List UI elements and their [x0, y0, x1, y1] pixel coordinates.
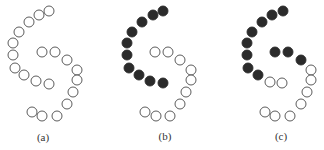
open-circle — [27, 107, 37, 117]
figure: (a) (b) (c) — [0, 0, 324, 150]
open-circle — [140, 107, 150, 117]
open-circle — [8, 38, 18, 48]
open-circle — [181, 87, 191, 97]
open-circle — [306, 75, 316, 85]
filled-circle — [158, 6, 168, 16]
open-circle — [10, 63, 20, 73]
open-circle — [19, 70, 29, 80]
open-circle — [163, 47, 173, 57]
open-circle — [52, 111, 62, 121]
filled-circle — [137, 17, 147, 27]
open-circle — [165, 111, 175, 121]
open-circle — [260, 107, 270, 117]
filled-circle — [124, 63, 134, 73]
open-circle — [68, 87, 78, 97]
open-circle — [151, 111, 161, 121]
filled-circle — [247, 27, 257, 37]
open-circle — [34, 10, 44, 20]
filled-circle — [253, 70, 263, 80]
panel-c — [242, 6, 316, 121]
open-circle — [175, 55, 185, 65]
filled-circle — [145, 76, 155, 86]
circle-diagram — [0, 0, 324, 150]
filled-circle — [242, 50, 252, 60]
filled-circle — [122, 38, 132, 48]
open-circle — [175, 99, 185, 109]
panel-label-b: (b) — [159, 130, 172, 142]
open-circle — [296, 99, 306, 109]
filled-circle — [148, 10, 158, 20]
open-circle — [8, 50, 18, 60]
panel-label-c: (c) — [275, 130, 287, 142]
open-circle — [306, 65, 316, 75]
open-circle — [277, 78, 287, 88]
open-circle — [72, 75, 82, 85]
filled-circle — [122, 50, 132, 60]
open-circle — [285, 111, 295, 121]
filled-circle — [242, 38, 252, 48]
open-circle — [37, 47, 47, 57]
filled-circle — [278, 6, 288, 16]
filled-circle — [243, 63, 253, 73]
panel-label-a: (a) — [37, 131, 49, 143]
open-circle — [186, 75, 196, 85]
filled-circle — [283, 47, 293, 57]
open-circle — [72, 65, 82, 75]
filled-circle — [270, 47, 280, 57]
open-circle — [24, 17, 34, 27]
open-circle — [150, 47, 160, 57]
panel-b — [122, 6, 196, 121]
open-circle — [37, 111, 47, 121]
open-circle — [44, 79, 54, 89]
panel-a — [8, 6, 82, 121]
open-circle — [44, 6, 54, 16]
open-circle — [50, 47, 60, 57]
open-circle — [62, 99, 72, 109]
filled-circle — [267, 10, 277, 20]
open-circle — [14, 27, 24, 37]
filled-circle — [134, 70, 144, 80]
open-circle — [31, 76, 41, 86]
open-circle — [186, 65, 196, 75]
filled-circle — [127, 27, 137, 37]
filled-circle — [257, 17, 267, 27]
filled-circle — [296, 55, 306, 65]
open-circle — [270, 111, 280, 121]
filled-circle — [158, 78, 168, 88]
open-circle — [265, 77, 275, 87]
open-circle — [62, 55, 72, 65]
open-circle — [302, 87, 312, 97]
